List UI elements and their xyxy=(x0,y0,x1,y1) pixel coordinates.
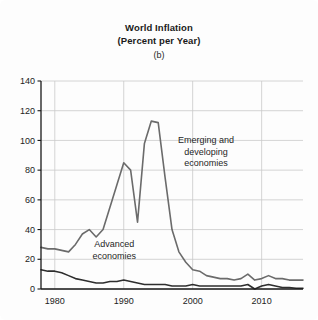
x-tick-label: 1990 xyxy=(114,296,134,306)
line-chart: 020406080100120140 1980199020002010 Emer… xyxy=(0,60,318,315)
x-tick-labels: 1980199020002010 xyxy=(45,296,272,306)
y-tick-label: 80 xyxy=(25,165,35,175)
chart-title-line-2: (Percent per Year) xyxy=(0,35,318,48)
emerging-label: Emerging anddevelopingeconomies xyxy=(178,135,234,168)
y-tick-label: 20 xyxy=(25,254,35,264)
annotation-line: Advanced xyxy=(94,239,134,249)
y-tick-labels: 020406080100120140 xyxy=(20,76,35,294)
grid-layer xyxy=(41,81,303,289)
y-tick-label: 40 xyxy=(25,225,35,235)
y-tick-label: 60 xyxy=(25,195,35,205)
x-tick-label: 2000 xyxy=(183,296,203,306)
series-line xyxy=(41,121,303,280)
annotation-line: economies xyxy=(184,158,228,168)
y-tick-label: 140 xyxy=(20,76,35,86)
annotation-layer: Emerging anddevelopingeconomiesAdvancede… xyxy=(93,135,234,261)
y-tick-label: 0 xyxy=(30,284,35,294)
axis-layer xyxy=(38,81,304,289)
annotation-line: developing xyxy=(184,147,228,157)
x-tick-label: 1980 xyxy=(45,296,65,306)
annotation-line: economies xyxy=(93,251,137,261)
x-tick-label: 2010 xyxy=(252,296,272,306)
figure-panel: World Inflation (Percent per Year) (b) 0… xyxy=(0,0,318,320)
series-layer xyxy=(41,121,303,289)
y-tick-label: 120 xyxy=(20,106,35,116)
y-tick-label: 100 xyxy=(20,136,35,146)
chart-title-block: World Inflation (Percent per Year) (b) xyxy=(0,22,318,62)
annotation-line: Emerging and xyxy=(178,135,234,145)
advanced-label: Advancedeconomies xyxy=(93,239,137,261)
series-line xyxy=(41,270,303,289)
chart-title-line-1: World Inflation xyxy=(0,22,318,35)
